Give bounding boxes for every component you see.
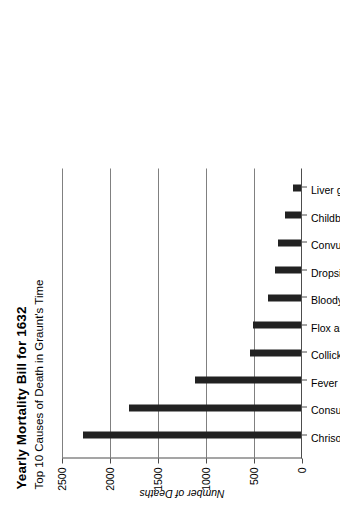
gridline [254, 168, 255, 458]
category-label: Bloody Flux, Scowring, and Flux [311, 293, 340, 305]
x-tick-mark [302, 406, 307, 407]
bar [253, 321, 301, 328]
category-label: Liver grown [311, 183, 340, 195]
y-tick-label: 500 [248, 467, 260, 485]
category-label: Flox and Small Pox [311, 321, 340, 333]
y-tick-label: 1000 [200, 467, 212, 490]
x-tick-mark [302, 324, 307, 325]
y-tick-mark [158, 458, 159, 463]
y-tick-label: 2500 [56, 467, 68, 490]
bar [268, 294, 301, 301]
chart-title: Yearly Mortality Bill for 1632 [14, 279, 30, 489]
category-label: Convulsion [311, 238, 340, 250]
bar [285, 211, 301, 218]
gridline [110, 168, 111, 458]
category-label: Collick, Stone, and Strangury [311, 348, 340, 360]
y-axis-line [62, 457, 302, 458]
y-tick-label: 0 [296, 467, 308, 473]
gridline [206, 168, 207, 458]
y-tick-label: 2000 [104, 467, 116, 490]
y-axis-label: Number of Deaths [139, 487, 224, 499]
x-tick-mark [302, 379, 307, 380]
category-label: Fever [311, 376, 338, 388]
category-label: Childbed [311, 211, 340, 223]
gridline [62, 168, 63, 458]
bar [293, 184, 301, 191]
bar [129, 404, 302, 411]
y-tick-mark [62, 458, 63, 463]
category-label: Consumption [311, 403, 340, 415]
y-tick-mark [254, 458, 255, 463]
y-tick-mark [206, 458, 207, 463]
x-tick-mark [302, 241, 307, 242]
bar [250, 349, 301, 356]
x-tick-mark [302, 214, 307, 215]
title-block: Yearly Mortality Bill for 1632 Top 10 Ca… [14, 279, 47, 489]
bar [195, 376, 301, 383]
y-tick-mark [302, 458, 303, 463]
bar [278, 239, 301, 246]
gridline [158, 168, 159, 458]
y-tick-mark [110, 458, 111, 463]
plot-area: 05001000150020002500 Chrisomes and infan… [62, 168, 302, 458]
x-tick-mark [302, 296, 307, 297]
chart-subtitle: Top 10 Causes of Death in Graunt's Time [33, 279, 47, 489]
x-tick-mark [302, 351, 307, 352]
y-tick-label: 1500 [152, 467, 164, 490]
x-tick-mark [302, 186, 307, 187]
category-label: Chrisomes and infants [311, 431, 340, 443]
x-tick-mark [302, 269, 307, 270]
category-label: Dropsie and Swelling [311, 266, 340, 278]
x-axis-line [301, 168, 302, 458]
bar [83, 431, 301, 438]
bar [275, 266, 301, 273]
x-tick-mark [302, 434, 307, 435]
chart-figure: Yearly Mortality Bill for 1632 Top 10 Ca… [0, 0, 340, 523]
